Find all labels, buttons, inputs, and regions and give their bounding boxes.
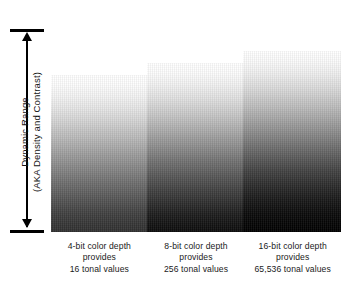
axis-cap-bottom [10, 230, 44, 233]
gradient-ramp-8bit-fill [147, 63, 243, 232]
gradient-ramp-8bit [147, 63, 243, 232]
caption-16bit-line2: provides [244, 252, 341, 263]
axis-label: Dynamic Range (AKA Density and Contrast) [19, 39, 43, 225]
dynamic-range-axis: Dynamic Range (AKA Density and Contrast) [0, 0, 50, 288]
caption-8bit: 8-bit color depth provides 256 tonal val… [148, 241, 245, 275]
dynamic-range-figure: Dynamic Range (AKA Density and Contrast)… [0, 0, 359, 288]
caption-4bit-line1: 4-bit color depth [51, 241, 148, 252]
caption-8bit-line2: provides [148, 252, 245, 263]
caption-16bit-line1: 16-bit color depth [244, 241, 341, 252]
caption-4bit-line2: provides [51, 252, 148, 263]
caption-16bit-line3: 65,536 tonal values [244, 264, 341, 275]
gradient-ramp-16bit-fill [243, 51, 341, 232]
caption-8bit-line3: 256 tonal values [148, 264, 245, 275]
caption-8bit-line1: 8-bit color depth [148, 241, 245, 252]
caption-4bit: 4-bit color depth provides 16 tonal valu… [51, 241, 148, 275]
axis-label-line2: (AKA Density and Contrast) [31, 39, 43, 225]
gradient-ramp-4bit-fill [51, 75, 147, 232]
gradient-ramp-4bit [51, 75, 147, 232]
ramp-captions: 4-bit color depth provides 16 tonal valu… [51, 241, 341, 275]
caption-16bit: 16-bit color depth provides 65,536 tonal… [244, 241, 341, 275]
gradient-ramp-16bit [243, 51, 341, 232]
caption-4bit-line3: 16 tonal values [51, 264, 148, 275]
axis-label-line1: Dynamic Range [19, 39, 31, 225]
